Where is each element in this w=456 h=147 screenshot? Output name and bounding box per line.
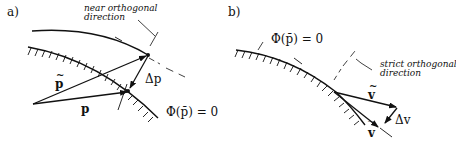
tilde-accent: ~	[369, 81, 377, 91]
vector-v-bar-label: ‾ v	[368, 127, 375, 139]
diagram-canvas: a) near orthogonal direction ~ p ‾ p Δp …	[0, 0, 456, 147]
near-orthogonal-direction-line	[150, 32, 158, 46]
panel-a-label: a)	[7, 6, 19, 18]
vector-p-tilde-label: ~ p	[55, 78, 63, 90]
delta-v-label: Δv	[395, 114, 410, 126]
near-orthogonal-annotation-line2: direction	[84, 13, 125, 22]
surface-hatching-a	[28, 48, 153, 122]
panel-b-label: b)	[228, 6, 240, 18]
panel-a-graphics	[28, 20, 185, 122]
constraint-surface-a	[28, 47, 158, 118]
strict-orthogonal-direction-line	[334, 69, 341, 80]
delta-p-label: Δp	[145, 73, 161, 85]
constraint-surface-b	[236, 50, 365, 125]
bar-accent: ‾	[368, 120, 373, 130]
tilde-accent: ~	[56, 70, 64, 80]
surface-hatching-b	[235, 50, 359, 125]
constraint-label-a: Φ(p̄) = 0	[166, 106, 218, 118]
constraint-label-b: Φ(p̄) = 0	[271, 33, 323, 45]
vector-p-bar-label: ‾ p	[81, 103, 89, 115]
strict-orthogonal-annotation-line2: direction	[380, 69, 421, 78]
bar-accent: ‾	[81, 96, 86, 106]
vector-v-tilde-label: ~ v	[368, 89, 375, 101]
